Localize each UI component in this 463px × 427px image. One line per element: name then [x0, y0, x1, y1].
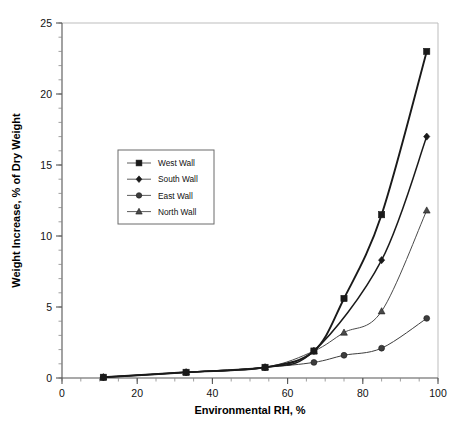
- x-axis-title: Environmental RH, %: [194, 404, 305, 416]
- marker-square: [183, 369, 189, 375]
- legend-label: East Wall: [158, 191, 193, 201]
- y-axis-title: Weight Increase, % of Dry Weight: [10, 113, 22, 288]
- x-tick-label: 20: [131, 387, 143, 399]
- chart-container: 0510152025020406080100Environmental RH, …: [0, 0, 463, 427]
- series-line: [103, 210, 426, 377]
- x-tick-label: 100: [429, 387, 447, 399]
- series-north-wall: [100, 207, 430, 380]
- marker-circle: [136, 193, 142, 199]
- y-tick-label: 25: [40, 17, 52, 29]
- marker-triangle: [378, 308, 385, 314]
- y-tick-label: 0: [46, 372, 52, 384]
- marker-square: [100, 374, 106, 380]
- marker-triangle: [341, 329, 348, 335]
- marker-circle: [341, 352, 347, 358]
- x-tick-label: 40: [207, 387, 219, 399]
- marker-square: [341, 295, 347, 301]
- marker-square: [424, 48, 430, 54]
- marker-square: [136, 160, 142, 166]
- marker-triangle: [423, 207, 430, 213]
- marker-circle: [424, 315, 430, 321]
- legend-label: North Wall: [158, 207, 197, 217]
- line-chart: 0510152025020406080100Environmental RH, …: [0, 0, 463, 427]
- marker-square: [379, 212, 385, 218]
- y-tick-label: 10: [40, 230, 52, 242]
- marker-diamond: [424, 133, 430, 140]
- x-tick-label: 80: [357, 387, 369, 399]
- marker-square: [262, 364, 268, 370]
- x-tick-label: 60: [282, 387, 294, 399]
- chart-legend: West WallSouth WallEast WallNorth Wall: [118, 150, 214, 224]
- marker-circle: [311, 359, 317, 365]
- legend-label: West Wall: [158, 158, 195, 168]
- x-tick-label: 0: [59, 387, 65, 399]
- y-tick-label: 5: [46, 301, 52, 313]
- legend-label: South Wall: [158, 174, 198, 184]
- marker-square: [311, 348, 317, 354]
- y-tick-label: 20: [40, 88, 52, 100]
- marker-circle: [379, 345, 385, 351]
- y-tick-label: 15: [40, 159, 52, 171]
